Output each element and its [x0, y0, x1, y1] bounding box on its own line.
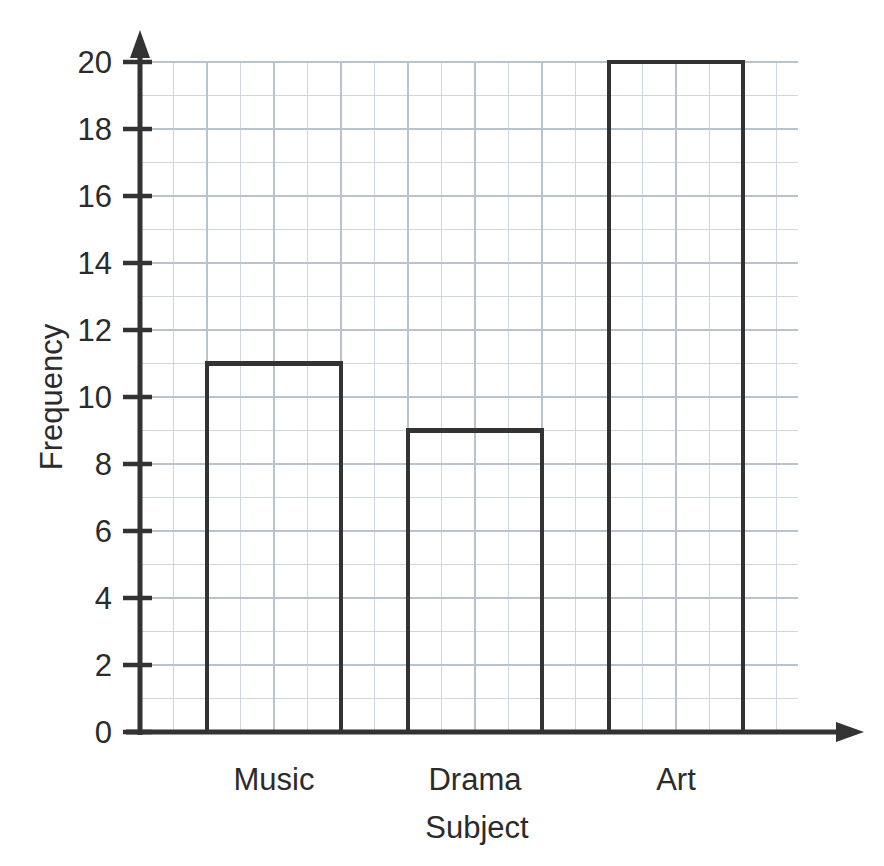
y-tick-label-8: 8 — [95, 447, 112, 482]
category-label-art: Art — [656, 762, 696, 797]
y-tick-label-18: 18 — [78, 112, 112, 147]
y-tick-label-4: 4 — [95, 581, 112, 616]
y-tick-label-0: 0 — [95, 715, 112, 750]
x-axis-arrowhead — [836, 722, 864, 742]
y-tick-label-16: 16 — [78, 179, 112, 214]
chart-canvas: 02468101214161820 MusicDramaArt Frequenc… — [0, 0, 884, 866]
y-tick-label-10: 10 — [78, 380, 112, 415]
y-axis-title: Frequency — [34, 323, 69, 470]
y-axis-arrowhead — [130, 30, 150, 58]
x-axis-title: Subject — [425, 810, 529, 845]
x-axis-category-labels: MusicDramaArt — [234, 762, 697, 797]
y-tick-label-14: 14 — [78, 246, 112, 281]
y-tick-label-6: 6 — [95, 514, 112, 549]
category-label-drama: Drama — [428, 762, 522, 797]
y-tick-label-20: 20 — [78, 45, 112, 80]
bar-chart-figure: 02468101214161820 MusicDramaArt Frequenc… — [0, 0, 884, 866]
y-tick-label-2: 2 — [95, 648, 112, 683]
category-label-music: Music — [234, 762, 315, 797]
y-axis-tick-labels: 02468101214161820 — [78, 45, 112, 750]
y-tick-label-12: 12 — [78, 313, 112, 348]
